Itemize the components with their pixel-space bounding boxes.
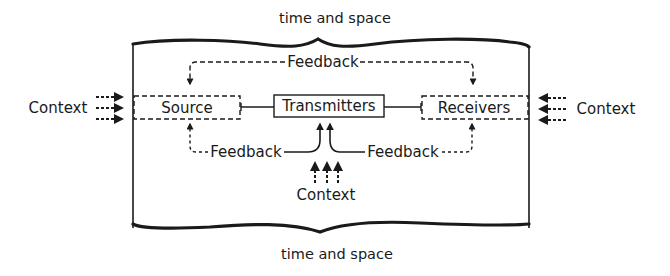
right-context-arrows [540,98,566,120]
source-node: Source [134,96,240,119]
source-transmitters-link [241,103,274,111]
bottom-brace [133,222,529,232]
bottom-time-space-label: time and space [281,246,393,262]
right-context-label: Context [577,100,636,118]
bottom-left-feedback: Feedback [190,124,320,161]
bottom-right-feedback-label: Feedback [367,143,439,161]
top-feedback-loop: Feedback [190,53,473,84]
top-time-space-label: time and space [279,10,391,26]
left-context-label: Context [29,99,88,117]
source-label: Source [161,99,213,117]
transmitters-receivers-link [384,103,421,111]
bottom-left-feedback-label: Feedback [210,143,282,161]
bottom-context-arrows [315,163,338,183]
top-brace [133,39,529,47]
communication-diagram: time and space time and space Source Tra… [0,0,670,276]
left-context-arrows [96,97,122,119]
receivers-label: Receivers [438,99,511,117]
receivers-node: Receivers [422,96,528,119]
bottom-context-label: Context [297,186,356,204]
transmitters-node: Transmitters [274,95,384,117]
transmitters-label: Transmitters [281,97,376,115]
bottom-right-feedback: Feedback [330,124,472,161]
top-feedback-label: Feedback [287,53,359,71]
